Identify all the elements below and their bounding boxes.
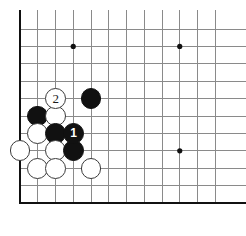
white-stone-move-2[interactable]: 2 xyxy=(45,88,66,109)
white-stone-c[interactable] xyxy=(10,140,31,161)
go-stone-layer: 21 xyxy=(0,0,246,236)
stone-move-number-label: 1 xyxy=(70,127,76,139)
stone-move-number-label: 2 xyxy=(52,92,58,105)
black-stone-move-1[interactable]: 1 xyxy=(63,123,84,144)
white-stone-g[interactable] xyxy=(81,158,102,179)
black-stone-e[interactable] xyxy=(81,88,102,109)
go-board-diagram: 21 xyxy=(0,0,246,236)
white-stone-f[interactable] xyxy=(45,158,66,179)
